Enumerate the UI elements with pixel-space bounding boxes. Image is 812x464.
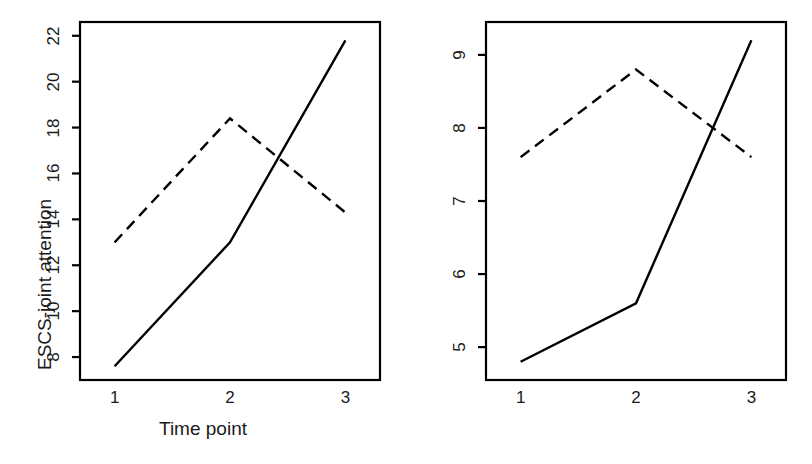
- plot-box: [80, 22, 380, 380]
- y-tick-label: 8: [44, 340, 64, 374]
- data-series-dashed: [115, 118, 346, 242]
- y-tick-label: 14: [44, 202, 64, 236]
- y-tick-label: 6: [450, 257, 470, 291]
- x-tick-label: 3: [330, 388, 360, 408]
- y-tick-label: 8: [450, 111, 470, 145]
- y-tick-label: 7: [450, 184, 470, 218]
- x-tick-label: 1: [506, 388, 536, 408]
- data-series-solid: [115, 40, 346, 366]
- y-tick-label: 20: [44, 65, 64, 99]
- x-tick-label: 1: [100, 388, 130, 408]
- plot-box: [486, 22, 786, 380]
- x-tick-label: 2: [621, 388, 651, 408]
- data-series-solid: [521, 40, 752, 361]
- y-tick-label: 9: [450, 38, 470, 72]
- x-tick-label: 2: [215, 388, 245, 408]
- y-tick-label: 5: [450, 330, 470, 364]
- y-tick-label: 22: [44, 19, 64, 53]
- y-tick-label: 10: [44, 294, 64, 328]
- x-axis-label-left: Time point: [0, 418, 406, 440]
- y-tick-label: 12: [44, 248, 64, 282]
- y-tick-label: 18: [44, 111, 64, 145]
- data-series-dashed: [521, 69, 752, 157]
- y-tick-label: 16: [44, 156, 64, 190]
- chart-panel-right: ESCS-social interaction Time point 56789…: [406, 0, 812, 464]
- chart-panel-left: ESCS-joint attention Time point 81012141…: [0, 0, 406, 464]
- figure-canvas: ESCS-joint attention Time point 81012141…: [0, 0, 812, 464]
- x-tick-label: 3: [736, 388, 766, 408]
